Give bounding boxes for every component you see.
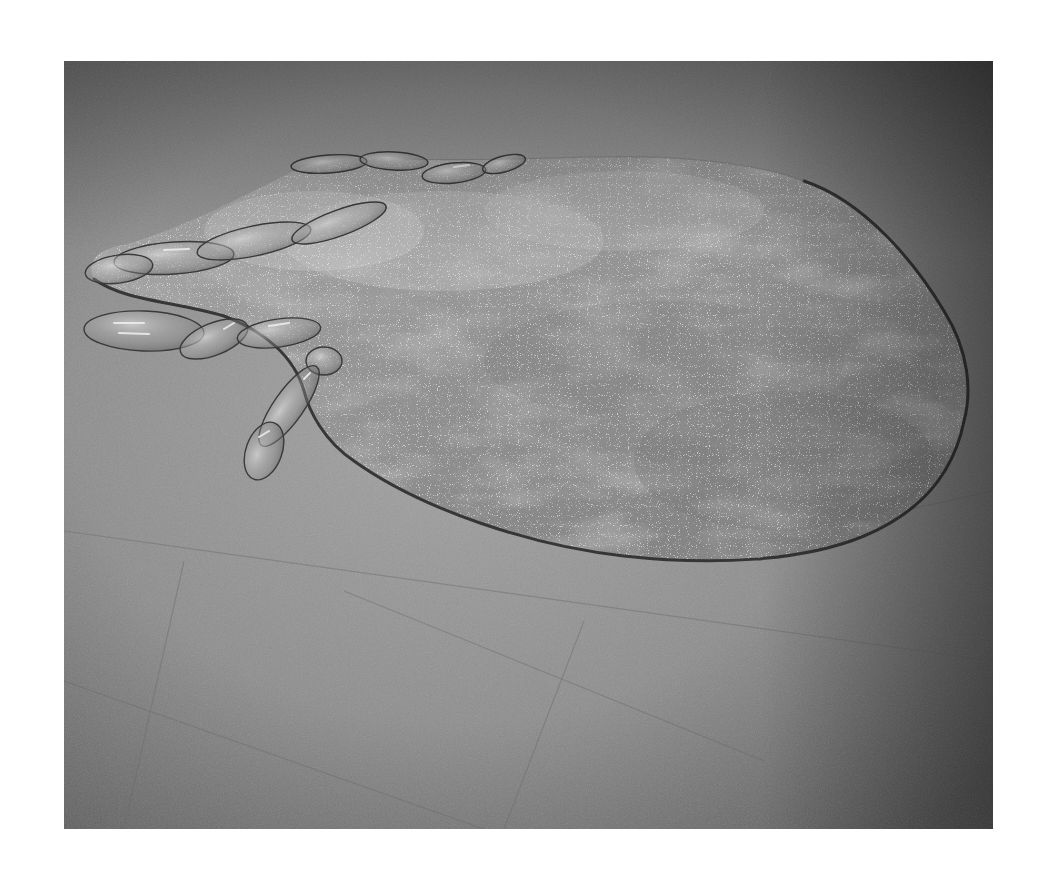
photo-canvas xyxy=(64,61,993,829)
page xyxy=(0,0,1049,878)
photograph xyxy=(64,61,993,829)
